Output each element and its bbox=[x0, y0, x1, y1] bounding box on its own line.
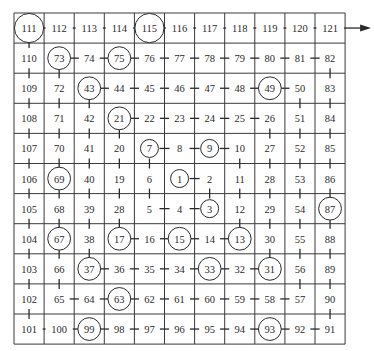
cell-number: 99 bbox=[84, 324, 95, 335]
cell-45: 45 bbox=[139, 82, 160, 94]
cell-number: 79 bbox=[235, 53, 246, 64]
cell-25: 25 bbox=[229, 112, 250, 124]
cell-number: 12 bbox=[235, 204, 246, 215]
cell-8: 8 bbox=[172, 142, 186, 154]
cell-2: 2 bbox=[202, 173, 216, 185]
cell-number: 81 bbox=[295, 53, 306, 64]
number-cells: 1111121131141151161171181191201211107374… bbox=[14, 13, 343, 340]
cell-20: 20 bbox=[109, 142, 130, 154]
cell-number: 5 bbox=[147, 204, 152, 215]
cell-103: 103 bbox=[15, 263, 42, 275]
arrow-icon bbox=[344, 25, 371, 32]
cell-number: 82 bbox=[325, 53, 336, 64]
cell-number: 2 bbox=[207, 174, 212, 185]
cell-93: 93 bbox=[258, 318, 281, 341]
cell-number: 42 bbox=[84, 113, 95, 124]
cell-33: 33 bbox=[198, 257, 221, 280]
cell-number: 103 bbox=[21, 264, 37, 275]
cell-110: 110 bbox=[15, 52, 42, 64]
cell-112: 112 bbox=[46, 22, 73, 34]
cell-number: 17 bbox=[114, 234, 125, 245]
cell-number: 23 bbox=[174, 113, 185, 124]
cell-84: 84 bbox=[320, 112, 341, 124]
cell-number: 74 bbox=[84, 53, 95, 64]
cell-76: 76 bbox=[139, 52, 160, 64]
cell-72: 72 bbox=[49, 82, 70, 94]
cell-number: 76 bbox=[144, 53, 155, 64]
cell-number: 20 bbox=[114, 143, 125, 154]
cell-26: 26 bbox=[259, 112, 280, 124]
cell-62: 62 bbox=[139, 293, 160, 305]
cell-number: 57 bbox=[295, 294, 306, 305]
cell-111: 111 bbox=[14, 13, 43, 42]
cell-number: 11 bbox=[235, 174, 245, 185]
cell-number: 109 bbox=[21, 83, 37, 94]
cell-number: 28 bbox=[265, 174, 276, 185]
cell-number: 41 bbox=[84, 143, 95, 154]
cell-89: 89 bbox=[320, 263, 341, 275]
cell-28: 28 bbox=[259, 173, 280, 185]
cell-31: 31 bbox=[258, 257, 281, 280]
cell-number: 43 bbox=[84, 83, 95, 94]
cell-number: 110 bbox=[21, 53, 36, 64]
cell-98: 98 bbox=[109, 323, 130, 335]
cell-number: 27 bbox=[265, 143, 276, 154]
cell-number: 24 bbox=[204, 113, 215, 124]
cell-94: 94 bbox=[229, 323, 250, 335]
cell-12: 12 bbox=[229, 203, 250, 215]
cell-17: 17 bbox=[108, 227, 131, 250]
cell-number: 26 bbox=[265, 113, 276, 124]
cell-69: 69 bbox=[48, 167, 71, 190]
cell-number: 44 bbox=[114, 83, 125, 94]
cell-101: 101 bbox=[15, 323, 42, 335]
cell-6: 6 bbox=[142, 173, 156, 185]
cell-number: 56 bbox=[295, 264, 306, 275]
cell-number: 78 bbox=[204, 53, 215, 64]
cell-number: 13 bbox=[235, 234, 246, 245]
cell-number: 30 bbox=[265, 234, 276, 245]
cell-number: 97 bbox=[144, 324, 155, 335]
cell-number: 58 bbox=[265, 294, 276, 305]
cell-number: 108 bbox=[21, 113, 37, 124]
cell-number: 16 bbox=[144, 234, 155, 245]
cell-46: 46 bbox=[169, 82, 190, 94]
cell-number: 7 bbox=[147, 143, 152, 154]
cell-number: 31 bbox=[265, 264, 276, 275]
cell-number: 46 bbox=[174, 83, 185, 94]
cell-23: 23 bbox=[169, 112, 190, 124]
cell-51: 51 bbox=[290, 112, 311, 124]
cell-number: 120 bbox=[292, 23, 308, 34]
cell-number: 89 bbox=[325, 264, 336, 275]
cell-number: 51 bbox=[295, 113, 306, 124]
cell-number: 69 bbox=[54, 174, 65, 185]
cell-52: 52 bbox=[290, 142, 311, 154]
cell-number: 3 bbox=[207, 204, 212, 215]
cell-42: 42 bbox=[79, 112, 100, 124]
cell-16: 16 bbox=[139, 233, 160, 245]
cell-number: 22 bbox=[144, 113, 155, 124]
cell-37: 37 bbox=[78, 257, 101, 280]
cell-50: 50 bbox=[290, 82, 311, 94]
cell-number: 100 bbox=[51, 324, 67, 335]
cell-number: 55 bbox=[295, 234, 306, 245]
cell-59: 59 bbox=[229, 293, 250, 305]
cell-36: 36 bbox=[109, 263, 130, 275]
cell-number: 48 bbox=[235, 83, 246, 94]
cell-number: 72 bbox=[54, 83, 65, 94]
cell-64: 64 bbox=[79, 293, 100, 305]
cell-number: 65 bbox=[54, 294, 65, 305]
cell-number: 47 bbox=[204, 83, 215, 94]
cell-number: 29 bbox=[265, 204, 276, 215]
cell-number: 19 bbox=[114, 174, 125, 185]
cell-number: 112 bbox=[51, 23, 66, 34]
cell-24: 24 bbox=[199, 112, 220, 124]
cell-39: 39 bbox=[79, 203, 100, 215]
cell-number: 14 bbox=[204, 234, 215, 245]
cell-70: 70 bbox=[49, 142, 70, 154]
cell-number: 36 bbox=[114, 264, 125, 275]
cell-104: 104 bbox=[15, 233, 42, 245]
cell-73: 73 bbox=[48, 47, 71, 70]
cell-number: 95 bbox=[204, 324, 215, 335]
cell-number: 25 bbox=[235, 113, 246, 124]
cell-105: 105 bbox=[15, 203, 42, 215]
